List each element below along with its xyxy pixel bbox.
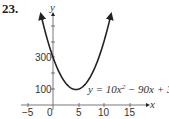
equation-label: y = 10x2 − 90x + 300 <box>87 83 169 95</box>
x-axis-label: x <box>149 98 155 110</box>
y-tick-label: 100 <box>35 84 52 95</box>
x-tick-label: 10 <box>98 107 110 118</box>
y-tick-label: 300 <box>35 52 52 63</box>
parabola-chart: −5 0 5 10 15 100 300 x y y = 10x2 − 90x … <box>0 0 169 119</box>
x-tick-label: 0 <box>47 107 53 118</box>
x-tick-label: 5 <box>76 107 82 118</box>
x-tick-label: 15 <box>124 107 136 118</box>
parabola-curve <box>41 16 110 90</box>
y-axis-label: y <box>49 1 55 13</box>
x-tick-label: −5 <box>22 107 34 118</box>
